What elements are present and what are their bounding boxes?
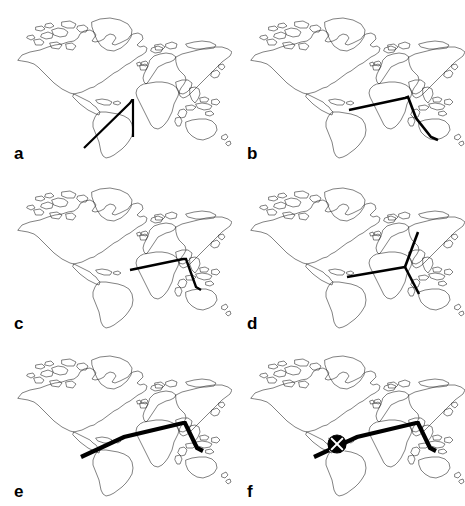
panel-d-map [233, 170, 465, 338]
panel-c-label: c [14, 315, 23, 332]
panel-b-route [349, 97, 438, 140]
panel-c: c [0, 170, 232, 338]
crossed-circle-node-marker [328, 435, 346, 453]
panel-e-label: e [14, 483, 23, 500]
panel-d-label: d [247, 315, 257, 332]
panel-c-map [0, 170, 232, 338]
figure-root: a b c d e [0, 0, 465, 506]
panel-a-map [0, 0, 232, 168]
panel-a: a [0, 0, 232, 168]
panel-d: d [233, 170, 465, 338]
panel-d-branch-west [347, 267, 405, 277]
panel-e: e [0, 338, 232, 506]
panel-f-label: f [247, 483, 253, 500]
panel-a-route [84, 100, 133, 148]
panel-b-map [233, 0, 465, 168]
panel-e-map [0, 338, 232, 506]
panel-b-label: b [247, 145, 257, 162]
panel-f: f [233, 338, 465, 506]
panel-f-map [233, 338, 465, 506]
panel-a-label: a [14, 145, 23, 162]
panel-b: b [233, 0, 465, 168]
panel-d-branch-southeast [405, 267, 419, 294]
